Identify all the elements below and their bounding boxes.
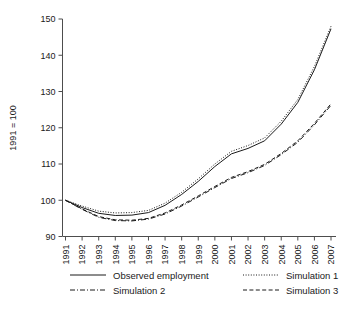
series-group [66,26,332,221]
y-tick-group: 90100110120130140150 [40,14,62,242]
y-tick-label: 140 [40,51,55,61]
y-tick-label: 110 [41,159,55,169]
x-tick-label: 1998 [177,245,187,265]
x-tick-label: 2005 [293,245,303,265]
chart-legend: Observed employmentSimulation 1Simulatio… [70,270,338,296]
x-tick-label: 1996 [144,245,154,265]
chart-figure: 90100110120130140150 1991199219931994199… [0,0,344,310]
legend-label-2: Simulation 1 [286,270,338,281]
legend-label-4: Simulation 3 [286,285,338,296]
x-tick-label: 1992 [77,245,87,265]
x-tick-label: 2002 [243,245,253,265]
x-tick-label: 1997 [160,245,170,265]
x-tick-label: 2003 [260,245,270,265]
x-tick-label: 2004 [277,245,287,265]
line-chart: 90100110120130140150 1991199219931994199… [0,0,344,310]
x-tick-label: 2001 [227,245,237,265]
y-tick-label: 150 [40,14,55,24]
series-line-3 [66,105,332,221]
x-tick-label: 1995 [127,245,137,265]
x-tick-label: 1991 [61,245,71,265]
x-tick-group: 1991199219931994199519961997199819992000… [61,237,337,265]
x-tick-label: 1994 [111,245,121,265]
legend-label-3: Simulation 2 [113,285,165,296]
x-tick-label: 1999 [194,245,204,265]
x-tick-label: 2000 [210,245,220,265]
x-tick-label: 2007 [326,245,336,265]
series-line-1 [66,29,332,216]
y-tick-label: 120 [40,123,55,133]
y-tick-label: 100 [40,196,55,206]
series-line-4 [66,104,332,220]
x-tick-label: 2006 [310,245,320,265]
legend-label-1: Observed employment [113,270,209,281]
x-tick-label: 1993 [94,245,104,265]
series-line-2 [66,26,332,213]
y-tick-label: 130 [40,87,55,97]
y-axis-title: 1991 = 100 [8,105,18,150]
y-tick-label: 90 [45,232,55,242]
